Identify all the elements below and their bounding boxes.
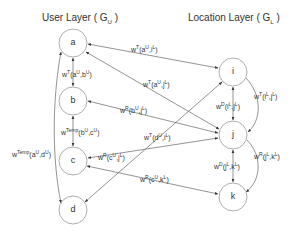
edge-i-j-t	[246, 78, 258, 132]
label-d-i: wT(dU,iL)	[144, 133, 171, 141]
edge-d-i	[85, 82, 222, 202]
location-layer-title: Location Layer ( GL )	[188, 12, 280, 25]
graph-canvas	[0, 0, 300, 233]
edge-a-j	[86, 52, 219, 129]
edge-j-k-r	[246, 140, 258, 192]
user-layer-title: User Layer ( GU )	[42, 12, 118, 25]
node-k: k	[223, 191, 243, 201]
label-b-j: wR(bU,jL)	[120, 106, 147, 114]
label-a-i: wT(aU,iL)	[131, 45, 158, 53]
label-i-j-t: wT(iL,jL)	[254, 92, 277, 100]
label-c-j: wR(cU,jL)	[98, 153, 125, 161]
label-c-k: wR(cU,kL)	[140, 175, 169, 183]
node-i: i	[223, 66, 243, 76]
node-a: a	[63, 37, 83, 47]
node-b: b	[63, 95, 83, 105]
label-j-k-d: wD(jL,kL)	[214, 162, 240, 170]
label-b-c: wTemp(bU,cU)	[61, 128, 100, 136]
node-j: j	[223, 129, 243, 139]
edge-a-d	[54, 52, 61, 203]
label-i-j-d: wD(iL,jL)	[216, 102, 240, 110]
node-d: d	[63, 204, 83, 214]
node-c: c	[63, 155, 83, 165]
label-a-d: wTemp(aU,dU)	[12, 150, 51, 158]
label-a-b: wT(aU,bU)	[62, 70, 92, 78]
label-j-k-r: wR(jL,kL)	[254, 152, 280, 160]
label-a-j: wT(aU,jL)	[143, 80, 170, 88]
